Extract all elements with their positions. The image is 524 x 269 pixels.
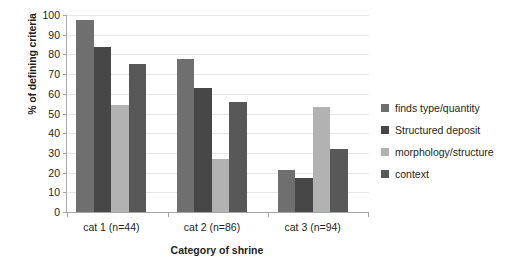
x-tick-label: cat 3 (n=94) bbox=[284, 221, 340, 233]
legend-swatch-icon bbox=[381, 104, 389, 112]
bar bbox=[76, 20, 94, 212]
y-axis-title: % of defining criteria bbox=[26, 0, 38, 144]
bar-group bbox=[168, 15, 269, 212]
y-tick-label-60: 60 bbox=[48, 89, 67, 100]
x-tick-mark bbox=[67, 212, 68, 217]
x-tick-mark bbox=[368, 212, 369, 217]
bar bbox=[278, 170, 296, 212]
y-tick-label-80: 80 bbox=[48, 49, 67, 60]
bar-chart: % of defining criteria 10090807060504030… bbox=[0, 0, 524, 269]
bar-group bbox=[268, 15, 369, 212]
bar bbox=[177, 59, 195, 212]
legend: finds type/quantityStructured depositmor… bbox=[381, 97, 494, 185]
y-tick-label-0: 0 bbox=[54, 207, 67, 218]
x-axis-title: Category of shrine bbox=[66, 244, 368, 256]
y-tick-label-90: 90 bbox=[48, 29, 67, 40]
legend-item: finds type/quantity bbox=[381, 97, 494, 119]
legend-swatch-icon bbox=[381, 170, 389, 178]
y-tick-label-100: 100 bbox=[42, 10, 67, 21]
x-tick-mark bbox=[168, 212, 169, 217]
y-tick-label-10: 10 bbox=[48, 187, 67, 198]
bar bbox=[330, 149, 348, 212]
bar bbox=[229, 102, 247, 212]
legend-item: context bbox=[381, 163, 494, 185]
x-tick-label: cat 2 (n=86) bbox=[184, 221, 240, 233]
y-tick-label-50: 50 bbox=[48, 108, 67, 119]
bar-group bbox=[67, 15, 168, 212]
legend-label: finds type/quantity bbox=[395, 103, 480, 114]
y-tick-label-30: 30 bbox=[48, 148, 67, 159]
gridline-0 bbox=[67, 212, 369, 213]
legend-label: context bbox=[395, 169, 429, 180]
bar bbox=[94, 47, 112, 212]
bar bbox=[111, 105, 129, 212]
legend-swatch-icon bbox=[381, 126, 389, 134]
legend-label: morphology/structure bbox=[395, 147, 494, 158]
bar bbox=[295, 178, 313, 212]
bar bbox=[129, 64, 147, 212]
y-tick-label-20: 20 bbox=[48, 167, 67, 178]
bars-layer bbox=[67, 15, 369, 212]
bar bbox=[194, 88, 212, 212]
y-tick-label-40: 40 bbox=[48, 128, 67, 139]
legend-item: Structured deposit bbox=[381, 119, 494, 141]
x-tick-label: cat 1 (n=44) bbox=[83, 221, 139, 233]
legend-swatch-icon bbox=[381, 148, 389, 156]
y-tick-label-70: 70 bbox=[48, 69, 67, 80]
legend-item: morphology/structure bbox=[381, 141, 494, 163]
legend-label: Structured deposit bbox=[395, 125, 480, 136]
bar bbox=[313, 107, 331, 212]
x-tick-mark bbox=[268, 212, 269, 217]
plot-area: 1009080706050403020100 cat 1 (n=44)cat 2… bbox=[66, 15, 369, 212]
bar bbox=[212, 159, 230, 212]
